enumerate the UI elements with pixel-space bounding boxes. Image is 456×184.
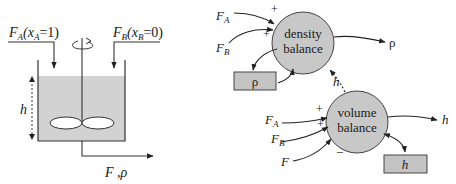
inlet-a-label: FA(xA=1)	[8, 25, 59, 42]
inlet-b-pipe	[114, 42, 160, 68]
volume-state-bidirectional-arrow	[384, 134, 405, 152]
volume-input-a-sign: +	[316, 102, 323, 116]
svg-text:volume: volume	[338, 105, 377, 120]
outlet-label: F ,ρ	[104, 165, 128, 180]
density-output-arrow	[334, 36, 385, 42]
svg-text:density: density	[284, 26, 322, 41]
volume-input-f-sign: −	[336, 145, 343, 160]
volume-state-label: h	[402, 157, 409, 172]
impeller-blade-right	[82, 117, 114, 129]
svg-text:balance: balance	[283, 41, 323, 56]
inlet-a-pipe	[8, 42, 54, 68]
tank-schematic	[8, 38, 160, 156]
level-label: h	[20, 102, 27, 117]
outlet-pipe	[82, 141, 153, 156]
density-input-a-arrow	[234, 13, 274, 24]
volume-input-b-label: FB	[270, 131, 285, 148]
svg-text:balance: balance	[337, 120, 377, 135]
density-input-b-label: FB	[215, 40, 230, 57]
density-input-a-sign: +	[271, 2, 278, 16]
volume-input-b-sign: +	[317, 117, 324, 131]
impeller-blade-left	[50, 117, 82, 129]
density-input-a-label: FA	[215, 8, 230, 25]
density-state-label: ρ	[252, 74, 259, 89]
volume-balance-node: volume balance	[326, 91, 388, 153]
diagram-canvas: FA(xA=1) FB(xB=0) h F ,ρ density balance…	[0, 0, 456, 184]
volume-output-arrow	[388, 116, 437, 120]
volume-input-a-label: FA	[264, 112, 279, 129]
density-output-label: ρ	[389, 35, 396, 50]
volume-input-f-arrow	[293, 139, 331, 161]
density-balance-node: density balance	[272, 12, 334, 74]
h-feedback-label: h	[333, 74, 340, 89]
volume-input-f-label: F	[280, 154, 290, 169]
volume-output-label: h	[442, 112, 449, 127]
density-input-b-sign: +	[263, 27, 270, 41]
inlet-b-label: FB(xB=0)	[112, 25, 163, 42]
